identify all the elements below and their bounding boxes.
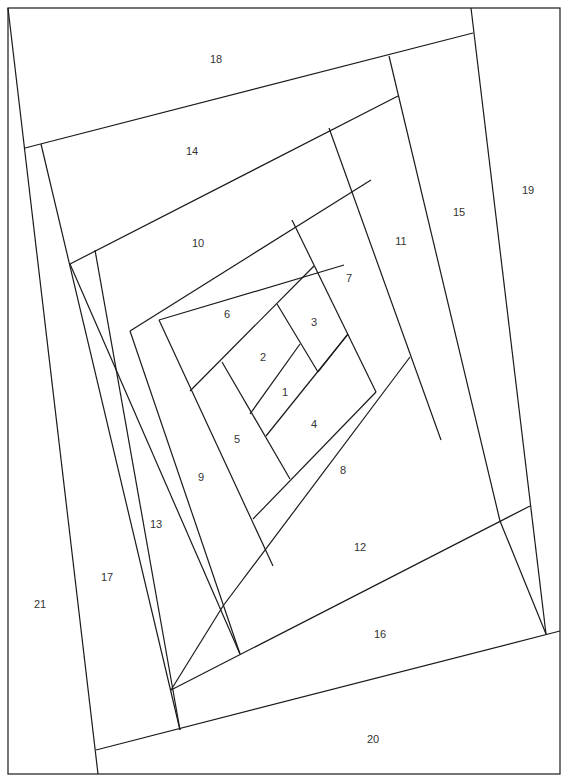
seam-line (389, 56, 500, 521)
seam-line (471, 8, 546, 634)
piece-number-label: 7 (346, 272, 352, 284)
seam-line (253, 392, 376, 519)
piece-number-label: 9 (198, 471, 204, 483)
piece-number-label: 18 (210, 53, 222, 65)
seam-line (159, 265, 344, 320)
seam-line (41, 144, 180, 730)
piece-number-label: 20 (367, 733, 379, 745)
seam-line (277, 304, 318, 372)
piece-number-label: 5 (234, 433, 240, 445)
piece-number-label: 8 (340, 464, 346, 476)
piece-number-label: 3 (311, 316, 317, 328)
seam-line (223, 357, 410, 606)
seam-line (70, 264, 240, 654)
piece-number-label: 19 (522, 184, 534, 196)
piece-number-label: 12 (354, 541, 366, 553)
seam-line (25, 33, 473, 148)
seam-line (8, 8, 98, 774)
piece-number-label: 16 (374, 628, 386, 640)
seam-line (190, 266, 314, 391)
seam-line (159, 320, 273, 566)
piece-number-label: 6 (224, 308, 230, 320)
seam-line (222, 362, 290, 479)
piece-number-label: 13 (150, 518, 162, 530)
seam-line (95, 250, 180, 730)
piece-number-label: 2 (260, 351, 266, 363)
piece-number-label: 1 (282, 386, 288, 398)
seam-line (292, 220, 376, 392)
piece-number-label: 10 (192, 237, 204, 249)
piece-number-label: 11 (395, 235, 406, 247)
piece-number-label: 17 (101, 571, 113, 583)
seam-line (171, 506, 530, 690)
seam-line (329, 128, 441, 440)
seam-line (171, 606, 223, 690)
seam-line (266, 334, 348, 436)
piece-number-label: 14 (186, 145, 198, 157)
piece-number-label: 4 (311, 418, 317, 430)
piece-number-label: 15 (453, 206, 465, 218)
seam-line (70, 96, 398, 264)
piece-number-label: 21 (34, 598, 46, 610)
